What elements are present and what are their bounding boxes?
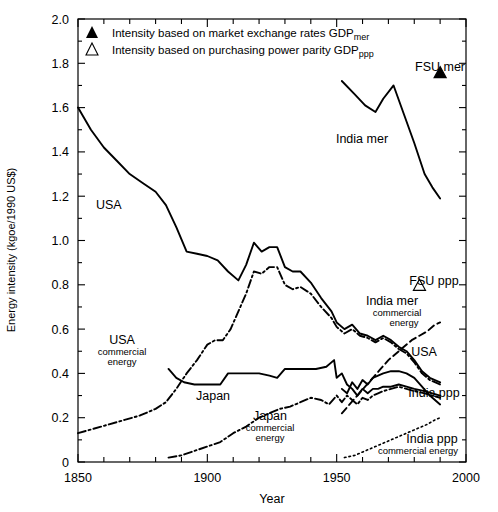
legend: Intensity based on market exchange rates… [86, 26, 374, 59]
label-usa-right: USA [411, 345, 437, 359]
label-fsu-ppp: FSU ppp [409, 274, 458, 288]
y-tick-label: 0.2 [52, 411, 69, 425]
label-india-mer-commercial-line3: energy [389, 317, 418, 328]
legend-item-mer-label: Intensity based on market exchange rates… [112, 27, 369, 42]
label-japan: Japan [196, 389, 230, 403]
y-axis-title: Energy intensity (kgoe/1990 US$) [5, 168, 17, 332]
label-india-mer: India mer [336, 132, 388, 146]
y-tick-labels: 00.20.40.60.81.01.21.41.61.82.0 [52, 13, 69, 470]
y-tick-label: 0.4 [52, 367, 69, 381]
label-usa-commercial-line3: energy [107, 356, 136, 367]
chart-figure: 00.20.40.60.81.01.21.41.61.82.0 18501900… [0, 0, 498, 512]
y-tick-label: 2.0 [52, 13, 69, 27]
label-india-mer-commercial: India mer [366, 294, 418, 308]
y-tick-label: 1.8 [52, 57, 69, 71]
y-tick-label: 1.2 [52, 190, 69, 204]
y-tick-label: 1.4 [52, 145, 69, 159]
label-fsu-mer: FSU mer [415, 60, 465, 74]
x-tick-label: 1950 [323, 471, 351, 485]
label-india-ppp-commercial: India ppp [406, 432, 457, 446]
label-india-ppp-commercial-line2: commercial energy [378, 445, 458, 456]
label-india-ppp: India ppp [408, 386, 459, 400]
y-tick-label: 1.6 [52, 101, 69, 115]
data-markers [413, 67, 446, 291]
y-tick-label: 0.6 [52, 323, 69, 337]
chart-canvas: 00.20.40.60.81.01.21.41.61.82.0 18501900… [0, 0, 498, 512]
y-tick-label: 0.8 [52, 278, 69, 292]
y-tick-label: 0 [62, 456, 69, 470]
x-axis-title: Year [259, 492, 284, 506]
y-tick-label: 1.0 [52, 234, 69, 248]
label-usa-commercial: USA [109, 333, 135, 347]
x-tick-labels: 1850190019502000 [64, 471, 480, 485]
filled-triangle-icon [86, 26, 98, 38]
label-usa: USA [96, 198, 122, 212]
label-japan-commercial-line3: energy [255, 432, 284, 443]
x-tick-label: 1900 [193, 471, 221, 485]
legend-item-ppp-label: Intensity based on purchasing power pari… [112, 44, 374, 59]
label-japan-commercial: Japan [253, 409, 287, 423]
x-tick-label: 2000 [452, 471, 480, 485]
open-triangle-icon [86, 43, 98, 55]
x-tick-label: 1850 [64, 471, 92, 485]
